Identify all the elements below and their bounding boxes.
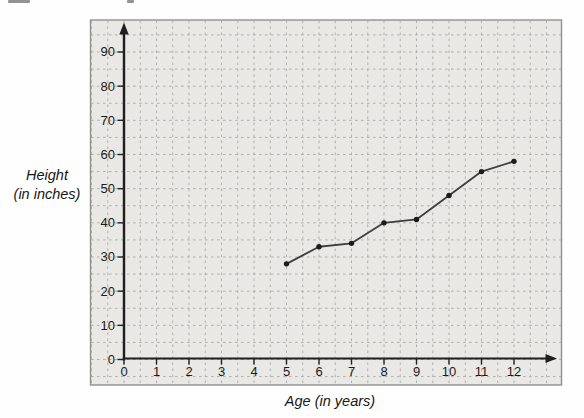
y-tick-label: 40 [101, 215, 115, 230]
data-point [414, 217, 419, 222]
x-tick-label: 8 [380, 364, 387, 379]
x-tick-label: 12 [507, 364, 521, 379]
data-point [446, 193, 451, 198]
y-tick-label: 20 [101, 284, 115, 299]
data-point [316, 244, 321, 249]
y-tick-label: 10 [101, 318, 115, 333]
data-point [284, 261, 289, 266]
x-tick-label: 1 [153, 364, 160, 379]
y-tick-label: 70 [101, 113, 115, 128]
y-tick-label: 90 [101, 44, 115, 59]
y-tick-label: 0 [108, 352, 115, 367]
x-tick-label: 5 [283, 364, 290, 379]
data-point [349, 241, 354, 246]
x-tick-label: 4 [250, 364, 257, 379]
y-axis-title: Height (in inches) [2, 166, 92, 203]
x-tick-label: 7 [348, 364, 355, 379]
x-tick-label: 2 [185, 364, 192, 379]
plot-panel [91, 20, 562, 385]
x-tick-label: 9 [413, 364, 420, 379]
x-tick-label: 10 [442, 364, 456, 379]
height-vs-age-line-chart: 0102030405060708090 0123456789101112 [0, 0, 584, 418]
x-tick-label: 6 [315, 364, 322, 379]
data-point [479, 169, 484, 174]
y-tick-label: 80 [101, 79, 115, 94]
y-tick-label: 60 [101, 147, 115, 162]
x-tick-label: 3 [218, 364, 225, 379]
x-tick-label: 0 [120, 364, 127, 379]
x-tick-label: 11 [475, 364, 489, 379]
y-tick-label: 30 [101, 249, 115, 264]
x-axis-title: Age (in years) [240, 392, 420, 411]
y-tick-label: 50 [101, 181, 115, 196]
data-point [381, 220, 386, 225]
data-point [511, 159, 516, 164]
